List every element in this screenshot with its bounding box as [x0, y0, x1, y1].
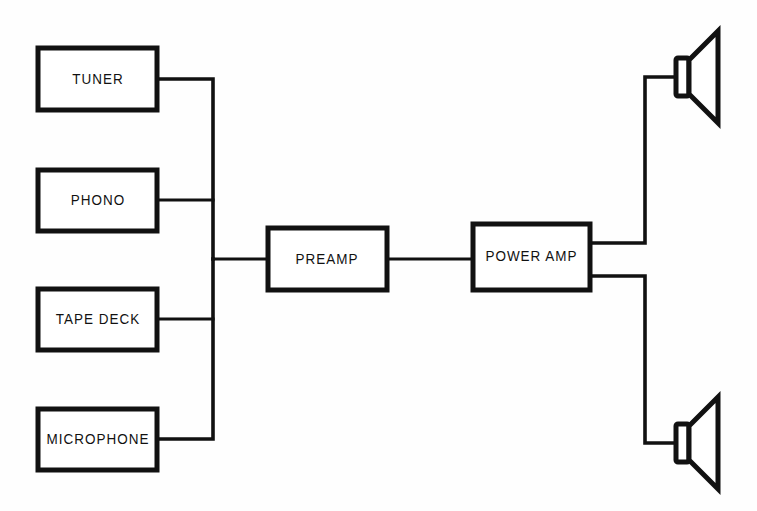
- wire-tuner-to-bus: [157, 79, 213, 259]
- block-tuner[interactable]: TUNER: [38, 48, 157, 110]
- block-power-amp[interactable]: POWER AMP: [473, 224, 590, 290]
- block-preamp-label: PREAMP: [296, 250, 359, 267]
- block-tape-deck-label: TAPE DECK: [56, 311, 140, 328]
- block-microphone-label: MICROPHONE: [47, 431, 150, 448]
- block-tape-deck[interactable]: TAPE DECK: [38, 289, 157, 350]
- wire-microphone-to-bus: [157, 259, 213, 439]
- block-preamp[interactable]: PREAMP: [268, 228, 387, 290]
- block-diagram-svg: TUNER PHONO TAPE DECK MICROPHONE PREAMP: [0, 0, 757, 511]
- wire-poweramp-to-speaker-top: [590, 77, 676, 243]
- speaker-group: [676, 31, 718, 489]
- block-microphone[interactable]: MICROPHONE: [38, 409, 157, 470]
- speaker-bottom[interactable]: [676, 397, 718, 489]
- block-diagram-canvas: TUNER PHONO TAPE DECK MICROPHONE PREAMP: [0, 0, 757, 511]
- block-phono-label: PHONO: [71, 192, 125, 209]
- block-phono[interactable]: PHONO: [38, 170, 157, 231]
- speaker-top-cone-icon: [689, 31, 718, 123]
- block-group: TUNER PHONO TAPE DECK MICROPHONE PREAMP: [38, 48, 590, 470]
- speaker-top[interactable]: [676, 31, 718, 123]
- block-tuner-label: TUNER: [72, 70, 123, 87]
- speaker-bottom-cone-icon: [689, 397, 718, 489]
- block-power-amp-label: POWER AMP: [485, 248, 577, 265]
- wire-poweramp-to-speaker-bottom: [590, 276, 676, 443]
- wire-group: [157, 77, 676, 443]
